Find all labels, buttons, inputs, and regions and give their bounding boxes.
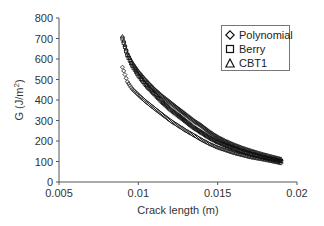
legend-item-berry: Berry bbox=[225, 42, 265, 56]
legend-item-polynomial: Polynomial bbox=[225, 28, 293, 42]
x-axis-label: Crack length (m) bbox=[137, 204, 218, 216]
x-tick-label: 0.005 bbox=[45, 187, 73, 199]
y-tick-label: 400 bbox=[35, 94, 53, 106]
y-tick-label: 300 bbox=[35, 115, 53, 127]
legend: Polynomial Berry CBT1 bbox=[221, 25, 290, 71]
y-tick-label: 200 bbox=[35, 135, 53, 147]
legend-label: Polynomial bbox=[239, 28, 293, 42]
x-tick-label: 0.01 bbox=[128, 187, 149, 199]
x-tick-label: 0.02 bbox=[286, 187, 307, 199]
diamond-marker-icon bbox=[225, 30, 235, 40]
y-tick-label: 100 bbox=[35, 156, 53, 168]
legend-item-cbt1: CBT1 bbox=[225, 56, 267, 70]
y-tick-label: 800 bbox=[35, 12, 53, 24]
square-marker-icon bbox=[225, 44, 235, 54]
y-tick-label: 700 bbox=[35, 33, 53, 45]
triangle-marker-icon bbox=[225, 58, 235, 68]
y-tick-label: 600 bbox=[35, 53, 53, 65]
legend-label: CBT1 bbox=[239, 56, 267, 70]
y-tick-label: 500 bbox=[35, 74, 53, 86]
legend-label: Berry bbox=[239, 42, 265, 56]
y-axis-label: G (J/m2) bbox=[12, 79, 25, 120]
x-tick-label: 0.015 bbox=[204, 187, 232, 199]
